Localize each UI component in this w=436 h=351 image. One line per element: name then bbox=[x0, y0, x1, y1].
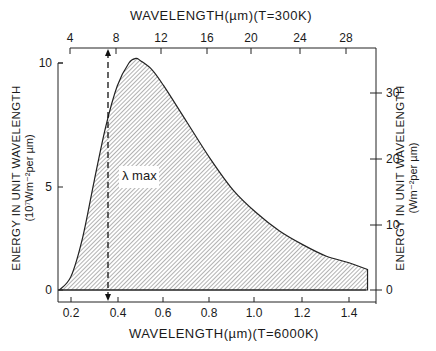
right-y-axis-label: ENERGY IN UNIT WAVELENGTH (Wm⁻²per µm) bbox=[394, 85, 419, 270]
right-tick-label: 0 bbox=[386, 283, 393, 297]
top-tick-label: 24 bbox=[293, 31, 307, 45]
top-tick-label: 28 bbox=[339, 31, 353, 45]
bottom-x-axis-label: WAVELENGTH(µm)(T=6000K) bbox=[129, 326, 319, 341]
left-y-axis-units: (10⁷Wm⁻²per µm) bbox=[23, 134, 35, 221]
top-tick-label: 16 bbox=[200, 31, 214, 45]
bottom-tick-label: 1.0 bbox=[246, 306, 263, 320]
bottom-tick-label: 0.4 bbox=[110, 306, 127, 320]
left-y-axis-title: ENERGY IN UNIT WAVELENGTH bbox=[10, 85, 22, 270]
spectrum-area bbox=[59, 58, 367, 290]
bottom-x-axis: 0.20.40.60.81.01.21.4 bbox=[58, 297, 376, 320]
top-tick-label: 12 bbox=[154, 31, 168, 45]
bottom-tick-label: 1.4 bbox=[341, 306, 358, 320]
left-tick-label: 0 bbox=[45, 283, 52, 297]
right-y-axis-title: ENERGY IN UNIT WAVELENGTH bbox=[394, 85, 406, 270]
left-tick-label: 5 bbox=[45, 180, 52, 194]
blackbody-chart: 481216202428 WAVELENGTH(µm)(T=300K) 0510… bbox=[0, 0, 436, 351]
left-tick-label: 10 bbox=[39, 56, 53, 70]
left-y-axis: 0510 bbox=[39, 56, 63, 302]
left-y-axis-label: ENERGY IN UNIT WAVELENGTH (10⁷Wm⁻²per µm… bbox=[10, 85, 35, 270]
bottom-tick-label: 1.2 bbox=[294, 306, 311, 320]
top-tick-label: 20 bbox=[244, 31, 258, 45]
lambda-max-label: λ max bbox=[122, 168, 157, 183]
bottom-tick-label: 0.2 bbox=[63, 306, 80, 320]
top-tick-label: 4 bbox=[67, 31, 74, 45]
top-tick-label: 8 bbox=[113, 31, 120, 45]
right-y-axis-units: (Wm⁻²per µm) bbox=[407, 143, 419, 214]
top-x-axis-label: WAVELENGTH(µm)(T=300K) bbox=[130, 8, 312, 23]
bottom-tick-label: 0.8 bbox=[201, 306, 218, 320]
bottom-tick-label: 0.6 bbox=[155, 306, 172, 320]
